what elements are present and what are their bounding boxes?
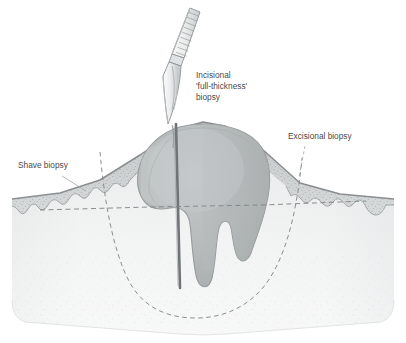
label-incisional-line1: Incisional — [196, 70, 231, 80]
scalpel-blade — [163, 62, 181, 124]
label-incisional-biopsy: Incisional 'full-thickness' biopsy — [196, 70, 248, 102]
label-incisional-line3: biopsy — [196, 92, 221, 102]
label-incisional-line2: 'full-thickness' — [196, 81, 248, 91]
biopsy-diagram-figure: Incisional 'full-thickness' biopsy Excis… — [0, 0, 406, 343]
scalpel — [163, 8, 200, 124]
label-shave-biopsy: Shave biopsy — [18, 160, 69, 170]
label-excisional-biopsy: Excisional biopsy — [288, 131, 352, 141]
excisional-leader-line — [299, 146, 305, 177]
biopsy-illustration-svg: Incisional 'full-thickness' biopsy Excis… — [0, 0, 406, 343]
